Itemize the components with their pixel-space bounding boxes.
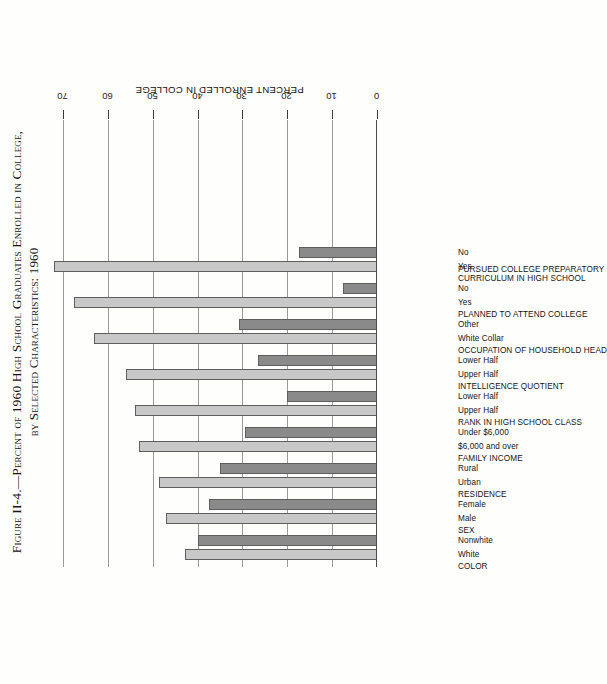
bar: [258, 356, 377, 367]
category-label: Lower Half: [458, 393, 498, 402]
figure-number: Figure II-4.: [9, 489, 24, 553]
bar: [166, 513, 377, 524]
axis-tick: [63, 110, 64, 119]
bar: [299, 248, 378, 259]
bar: [139, 441, 377, 452]
category-header-line: CURRICULUM IN HIGH SCHOOL: [458, 274, 604, 283]
category-label: Under $6,000: [458, 429, 509, 438]
figure-title: Figure II-4.—Percent of 1960 High School…: [8, 20, 42, 664]
axis-tick-label: 70: [51, 91, 75, 102]
bar: [185, 549, 377, 560]
bar: [54, 261, 377, 272]
figure-title-main: Percent of 1960 High School Graduates En…: [9, 131, 24, 476]
category-label: White Collar: [458, 334, 504, 343]
category-header: COLOR: [458, 562, 488, 571]
category-header: PURSUED COLLEGE PREPARATORYCURRICULUM IN…: [458, 265, 604, 283]
bar: [126, 369, 377, 380]
category-label: White: [458, 550, 479, 559]
category-label: Upper Half: [458, 370, 498, 379]
category-header-line: COLOR: [458, 562, 488, 571]
category-label: $6,000 and over: [458, 442, 519, 451]
bar: [135, 405, 377, 416]
category-label: Rural: [458, 465, 478, 474]
category-label: No: [458, 285, 469, 294]
category-label: Yes: [458, 262, 472, 271]
category-label: Other: [458, 321, 479, 330]
gridline: [63, 120, 64, 567]
axis-tick: [332, 110, 333, 119]
axis-tick: [198, 110, 199, 119]
category-label: Male: [458, 514, 476, 523]
category-header-line: PURSUED COLLEGE PREPARATORY: [458, 265, 604, 274]
category-label: Yes: [458, 298, 472, 307]
title-dash: —: [9, 476, 24, 490]
axis-tick: [108, 110, 109, 119]
axis-tick: [153, 110, 154, 119]
bar: [209, 500, 377, 511]
category-label: Upper Half: [458, 406, 498, 415]
axis-tick: [287, 110, 288, 119]
category-label: Urban: [458, 478, 481, 487]
bar: [287, 392, 377, 403]
category-header-line: SEX: [458, 526, 475, 535]
figure-title-sub: by Selected Characteristics: 1960: [25, 20, 42, 664]
bar: [245, 428, 377, 439]
axis-tick-label: 10: [320, 91, 344, 102]
category-label: Nonwhite: [458, 537, 493, 546]
category-label: No: [458, 249, 469, 258]
axis-tick: [377, 110, 378, 119]
category-header-line: PLANNED TO ATTEND COLLEGE: [458, 310, 587, 319]
category-header: PLANNED TO ATTEND COLLEGE: [458, 310, 587, 319]
axis-tick-label: 0: [365, 91, 389, 102]
category-header-line: RESIDENCE: [458, 490, 507, 499]
category-header: INTELLIGENCE QUOTIENT: [458, 382, 564, 391]
category-header-line: FAMILY INCOME: [458, 454, 523, 463]
category-header: FAMILY INCOME: [458, 454, 523, 463]
axis-baseline: [376, 120, 377, 567]
category-header-line: RANK IN HIGH SCHOOL CLASS: [458, 418, 582, 427]
category-header-line: INTELLIGENCE QUOTIENT: [458, 382, 564, 391]
bar: [220, 464, 377, 475]
bar: [239, 320, 377, 331]
plot-area: 010203040506070: [63, 120, 377, 567]
category-header: OCCUPATION OF HOUSEHOLD HEAD: [458, 346, 607, 355]
category-labels: COLORSEXRESIDENCEFAMILY INCOMERANK IN HI…: [380, 120, 458, 567]
category-header: RANK IN HIGH SCHOOL CLASS: [458, 418, 582, 427]
category-header: SEX: [458, 526, 475, 535]
bar: [159, 477, 377, 488]
bar: [198, 536, 377, 547]
axis-tick: [242, 110, 243, 119]
bar: [94, 333, 377, 344]
bar: [343, 284, 377, 295]
axis-title: PERCENT ENROLLED IN COLLEGE: [135, 85, 305, 96]
category-header: RESIDENCE: [458, 490, 507, 499]
category-label: Female: [458, 501, 486, 510]
category-header-line: OCCUPATION OF HOUSEHOLD HEAD: [458, 346, 607, 355]
bar: [74, 297, 377, 308]
axis-tick-label: 60: [95, 91, 119, 102]
category-label: Lower Half: [458, 357, 498, 366]
